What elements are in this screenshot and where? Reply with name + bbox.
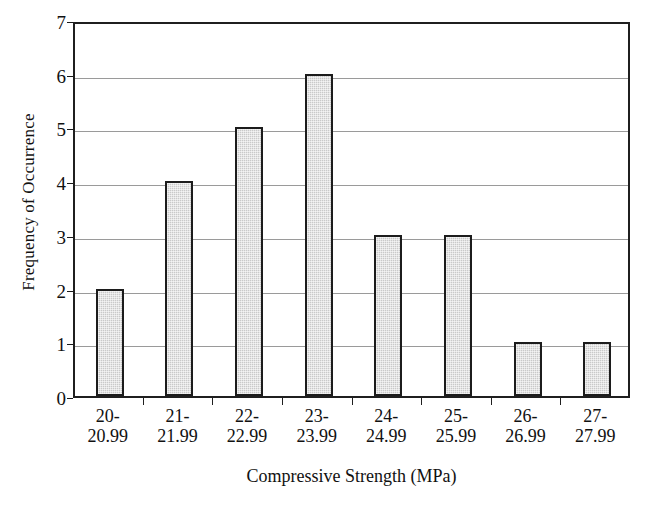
y-axis-tick-label: 0 xyxy=(40,389,66,408)
y-axis-tick-label: 7 xyxy=(40,13,66,32)
x-axis-tick-label: 20-20.99 xyxy=(73,406,143,446)
x-axis-tick-label: 22-22.99 xyxy=(212,406,282,446)
bar xyxy=(305,74,333,396)
histogram-figure: Frequency of Occurrence 01234567 Compres… xyxy=(0,0,656,510)
x-axis-tick-label-line2: 24.99 xyxy=(352,426,422,446)
x-axis-tick-label: 26-26.99 xyxy=(491,406,561,446)
y-axis-tick-label: 1 xyxy=(40,335,66,354)
x-axis-tick-label-line1: 20- xyxy=(96,406,120,426)
x-axis-tick-label-line1: 25- xyxy=(444,406,468,426)
y-axis-tick-label: 3 xyxy=(40,227,66,246)
gridline xyxy=(75,293,628,294)
x-axis-tick-label-line2: 20.99 xyxy=(73,426,143,446)
x-axis-tick-label-line2: 22.99 xyxy=(212,426,282,446)
x-axis-tick-label-line2: 26.99 xyxy=(491,426,561,446)
x-axis-tick-label: 23-23.99 xyxy=(282,406,352,446)
y-axis-tick-mark xyxy=(67,344,73,345)
y-axis-tick-mark xyxy=(67,76,73,77)
y-axis-tick-mark xyxy=(67,237,73,238)
bar xyxy=(583,342,611,396)
bar xyxy=(514,342,542,396)
bar xyxy=(96,289,124,396)
bar xyxy=(374,235,402,396)
x-axis-tick-label-line1: 22- xyxy=(235,406,259,426)
y-axis-tick-label: 5 xyxy=(40,120,66,139)
x-axis-tick-label-line1: 23- xyxy=(305,406,329,426)
x-axis-tick-mark xyxy=(352,398,353,405)
x-axis-tick-mark xyxy=(560,398,561,405)
y-axis-tick-mark xyxy=(67,129,73,130)
x-axis-tick-label: 24-24.99 xyxy=(352,406,422,446)
x-axis-tick-label: 21-21.99 xyxy=(143,406,213,446)
x-axis-tick-label: 27-27.99 xyxy=(560,406,630,446)
x-axis-tick-mark xyxy=(143,398,144,405)
gridline xyxy=(75,346,628,347)
y-axis-tick-label: 4 xyxy=(40,174,66,193)
y-axis-tick-mark xyxy=(67,398,73,399)
x-axis-tick-label: 25-25.99 xyxy=(421,406,491,446)
x-axis-tick-label-line1: 27- xyxy=(583,406,607,426)
y-axis-title: Frequency of Occurrence xyxy=(19,32,39,372)
x-axis-tick-label-line1: 21- xyxy=(165,406,189,426)
x-axis-tick-mark xyxy=(421,398,422,405)
bar xyxy=(444,235,472,396)
bar xyxy=(165,181,193,396)
x-axis-tick-label-line1: 26- xyxy=(514,406,538,426)
x-axis-tick-label-line2: 27.99 xyxy=(560,426,630,446)
x-axis-tick-mark xyxy=(282,398,283,405)
y-axis-tick-mark xyxy=(67,22,73,23)
x-axis-tick-label-line2: 21.99 xyxy=(143,426,213,446)
x-axis-tick-label-line2: 25.99 xyxy=(421,426,491,446)
gridline xyxy=(75,131,628,132)
x-axis-tick-label-line1: 24- xyxy=(374,406,398,426)
x-axis-tick-mark xyxy=(491,398,492,405)
x-axis-tick-mark xyxy=(212,398,213,405)
y-axis-tick-label: 6 xyxy=(40,66,66,85)
x-axis-tick-label-line2: 23.99 xyxy=(282,426,352,446)
gridline xyxy=(75,239,628,240)
y-axis-tick-labels: 01234567 xyxy=(40,22,66,398)
gridline xyxy=(75,78,628,79)
y-axis-tick-label: 2 xyxy=(40,281,66,300)
plot-area xyxy=(73,22,630,398)
gridline xyxy=(75,185,628,186)
x-axis-title: Compressive Strength (MPa) xyxy=(73,466,630,487)
bar xyxy=(235,127,263,396)
y-axis-tick-mark xyxy=(67,291,73,292)
y-axis-tick-mark xyxy=(67,183,73,184)
